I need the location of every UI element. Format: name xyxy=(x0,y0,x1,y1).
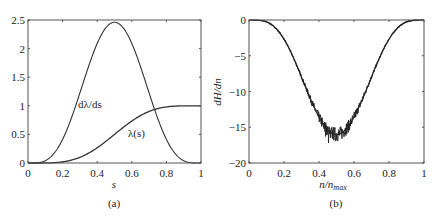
y-tick-label: 2.5 xyxy=(11,14,25,26)
panel-b-curves xyxy=(249,20,424,143)
panel-a-caption: (a) xyxy=(108,197,121,210)
panel-b-xlabel: n/nmax xyxy=(319,178,347,192)
panel-b-ylabel: dH/dn xyxy=(211,78,223,106)
y-tick-label: −20 xyxy=(229,157,247,169)
panel-b-ticks: 00.20.40.60.81−20−15−10−50 xyxy=(229,14,427,179)
annotation-lambda-s: λ(s) xyxy=(128,127,145,140)
series-lambda-line xyxy=(28,106,201,163)
x-tick-label: 0.2 xyxy=(56,167,70,179)
x-tick-label: 0 xyxy=(25,167,31,179)
series-dH-dn-line xyxy=(249,20,424,143)
y-tick-label: 0 xyxy=(20,157,26,169)
figure: 00.20.40.60.8100.511.522.5 dλ/ds λ(s) s … xyxy=(0,0,435,221)
x-tick-label: 0.2 xyxy=(277,167,291,179)
x-tick-label: 0.6 xyxy=(125,167,139,179)
panel-a-chart: 00.20.40.60.8100.511.522.5 dλ/ds λ(s) s … xyxy=(11,14,204,210)
y-tick-label: −5 xyxy=(234,50,246,62)
x-tick-label: 1 xyxy=(421,167,427,179)
y-tick-label: 1 xyxy=(20,100,26,112)
panel-a-ticks: 00.20.40.60.8100.511.522.5 xyxy=(11,14,204,179)
x-tick-label: 1 xyxy=(198,167,204,179)
panel-b-axes-box xyxy=(249,20,424,163)
y-tick-label: 0 xyxy=(241,14,247,26)
y-tick-label: −10 xyxy=(229,86,247,98)
x-tick-label: 0.8 xyxy=(160,167,174,179)
x-tick-label: 0.4 xyxy=(90,167,104,179)
series-dlambda-ds-line xyxy=(28,22,201,163)
y-tick-label: 2 xyxy=(20,43,26,55)
series-dH-dn-trend xyxy=(249,20,424,134)
x-tick-label: 0.6 xyxy=(347,167,361,179)
panel-a-xlabel: s xyxy=(112,178,116,190)
panel-b-chart: 00.20.40.60.81−20−15−10−50 dH/dn n/nmax … xyxy=(211,14,427,210)
panel-a-curves xyxy=(28,22,201,163)
x-tick-label: 0 xyxy=(246,167,252,179)
y-tick-label: −15 xyxy=(229,121,247,133)
panel-b-caption: (b) xyxy=(330,197,343,210)
panel-a-axes-box xyxy=(28,20,201,163)
annotation-dlambda-ds: dλ/ds xyxy=(78,98,102,110)
y-tick-label: 1.5 xyxy=(11,71,25,83)
x-tick-label: 0.8 xyxy=(382,167,396,179)
y-tick-label: 0.5 xyxy=(11,128,25,140)
